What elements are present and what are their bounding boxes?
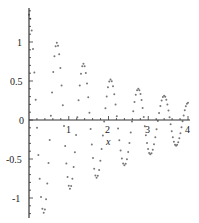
data-point bbox=[120, 149, 122, 151]
data-point bbox=[70, 185, 72, 187]
data-point bbox=[103, 121, 105, 123]
data-point bbox=[59, 67, 61, 69]
data-point bbox=[181, 126, 183, 128]
data-point bbox=[71, 178, 73, 180]
data-point bbox=[132, 110, 134, 112]
data-point bbox=[159, 105, 161, 107]
data-point bbox=[68, 185, 70, 187]
data-point bbox=[142, 107, 144, 109]
chart-plot: 1 2 3 4 x 1 0.5 0 -0.5 -1 bbox=[0, 0, 199, 223]
x-axis-label: x bbox=[105, 136, 111, 147]
data-point bbox=[147, 148, 149, 150]
data-point bbox=[57, 45, 59, 47]
data-point bbox=[90, 128, 92, 130]
data-point bbox=[58, 53, 60, 55]
data-point bbox=[164, 96, 166, 98]
data-point bbox=[115, 104, 117, 106]
data-point bbox=[88, 112, 90, 114]
data-point bbox=[161, 99, 163, 101]
data-point bbox=[125, 163, 127, 165]
data-point bbox=[101, 148, 103, 150]
data-point bbox=[50, 115, 52, 117]
data-point bbox=[49, 139, 51, 141]
data-point bbox=[56, 42, 58, 44]
data-point bbox=[61, 84, 63, 86]
data-point bbox=[92, 157, 94, 159]
data-point bbox=[99, 160, 101, 162]
data-point bbox=[116, 115, 118, 117]
x-tick-label-4: 4 bbox=[185, 124, 190, 135]
data-point bbox=[111, 80, 113, 82]
data-point bbox=[177, 141, 179, 143]
data-point bbox=[31, 29, 33, 31]
data-point bbox=[47, 162, 49, 164]
data-point bbox=[185, 105, 187, 107]
data-point bbox=[55, 45, 57, 47]
data-point bbox=[33, 72, 35, 74]
data-point bbox=[152, 149, 154, 151]
data-point bbox=[167, 109, 169, 111]
data-point bbox=[51, 91, 53, 93]
data-point bbox=[135, 94, 137, 96]
data-point bbox=[82, 63, 84, 65]
data-point bbox=[169, 116, 171, 118]
data-point bbox=[45, 198, 47, 200]
data-point bbox=[78, 99, 80, 101]
data-point bbox=[65, 162, 67, 164]
y-tick-label-neg0.5: -0.5 bbox=[6, 154, 22, 165]
y-tick-label-1: 1 bbox=[17, 37, 22, 48]
data-point bbox=[112, 85, 114, 87]
data-point bbox=[108, 80, 110, 82]
y-tick-label-neg1: -1 bbox=[12, 193, 20, 204]
data-point bbox=[69, 188, 71, 190]
data-point bbox=[86, 82, 88, 84]
data-point bbox=[184, 109, 186, 111]
data-point bbox=[158, 112, 160, 114]
y-tick-label-0: 0 bbox=[19, 115, 24, 126]
data-point bbox=[62, 104, 64, 106]
data-point bbox=[39, 178, 41, 180]
data-point bbox=[153, 143, 155, 145]
data-point bbox=[123, 164, 125, 166]
data-point bbox=[96, 177, 98, 179]
data-point bbox=[122, 163, 124, 165]
data-point bbox=[79, 84, 81, 86]
data-point bbox=[91, 143, 93, 145]
data-point bbox=[37, 154, 39, 156]
data-point bbox=[187, 102, 189, 104]
data-point bbox=[179, 132, 181, 134]
data-point bbox=[104, 107, 106, 109]
data-point bbox=[80, 73, 82, 75]
data-point bbox=[84, 65, 86, 67]
data-point bbox=[97, 175, 99, 177]
data-point bbox=[98, 169, 100, 171]
data-point bbox=[141, 99, 143, 101]
data-point bbox=[106, 95, 108, 97]
data-point bbox=[127, 151, 129, 153]
data-point bbox=[40, 196, 42, 198]
data-point bbox=[75, 134, 77, 136]
data-point bbox=[165, 99, 167, 101]
x-tick-label-2: 2 bbox=[105, 124, 110, 135]
data-point bbox=[131, 121, 133, 123]
x-tick-label-1: 1 bbox=[66, 124, 71, 135]
data-point bbox=[43, 212, 45, 214]
data-point bbox=[130, 131, 132, 133]
data-point bbox=[118, 139, 120, 141]
data-point bbox=[53, 55, 55, 57]
data-point bbox=[172, 136, 174, 138]
data-point bbox=[126, 158, 128, 160]
data-points bbox=[28, 14, 189, 214]
data-point bbox=[128, 142, 130, 144]
data-point bbox=[173, 141, 175, 143]
data-point bbox=[63, 125, 65, 127]
data-point bbox=[102, 135, 104, 137]
data-point bbox=[32, 48, 34, 50]
data-point bbox=[178, 137, 180, 139]
data-point bbox=[73, 166, 75, 168]
data-point bbox=[109, 78, 111, 80]
data-point bbox=[136, 89, 138, 91]
data-point bbox=[44, 208, 46, 210]
data-point bbox=[154, 136, 156, 138]
data-point bbox=[85, 72, 87, 74]
